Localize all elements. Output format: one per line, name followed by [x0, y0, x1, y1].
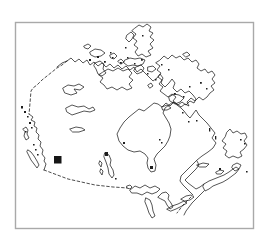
location-marker-square [54, 156, 62, 164]
canada-outline-map [0, 0, 268, 239]
map-svg [0, 0, 268, 239]
map-background [0, 0, 268, 239]
